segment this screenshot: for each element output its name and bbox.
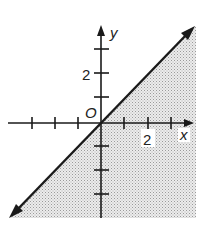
y-tick-label-2: 2	[82, 66, 90, 83]
x-axis-label: x	[179, 126, 188, 143]
inequality-graph: y x O 2 2	[0, 0, 207, 232]
origin-label: O	[85, 104, 97, 121]
y-axis-label: y	[109, 24, 119, 41]
y-axis-arrow-icon	[97, 25, 105, 36]
x-tick-label-2: 2	[143, 131, 151, 148]
